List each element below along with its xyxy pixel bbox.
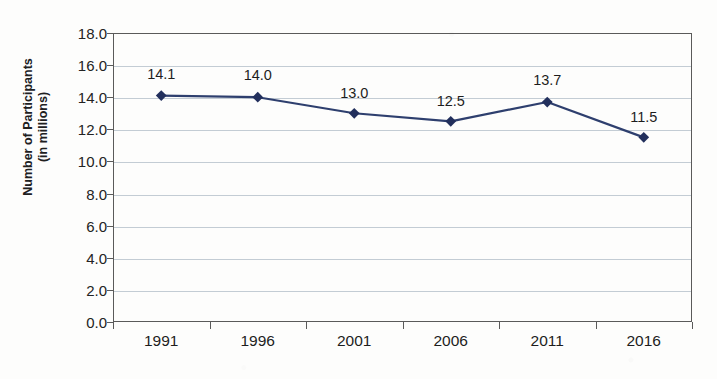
point-value-label: 14.0 — [218, 67, 298, 83]
y-axis-tickmark — [107, 226, 114, 227]
y-axis-tickmark — [107, 258, 114, 259]
gridline — [114, 130, 691, 131]
chart-figure: Number of Participants (in millions) 0.0… — [0, 0, 717, 379]
y-axis-tickmark — [107, 65, 114, 66]
gridline — [114, 98, 691, 99]
x-axis-tick-label: 1996 — [213, 332, 303, 350]
y-axis-tickmark — [107, 97, 114, 98]
x-axis-tick-label: 2016 — [599, 332, 689, 350]
x-axis-tickmark — [306, 322, 307, 329]
x-axis-tickmark — [403, 322, 404, 329]
y-axis-tickmark — [107, 33, 114, 34]
y-axis-tick-label: 8.0 — [0, 185, 107, 202]
y-axis-tick-label: 4.0 — [0, 249, 107, 266]
x-axis-tickmark — [210, 322, 211, 329]
gridline — [114, 227, 691, 228]
y-axis-tick-label: 14.0 — [0, 89, 107, 106]
y-axis-tickmark — [107, 161, 114, 162]
y-axis-tick-label: 12.0 — [0, 121, 107, 138]
y-axis-tickmark — [107, 194, 114, 195]
point-value-label: 13.0 — [314, 85, 394, 101]
x-axis-tickmark — [499, 322, 500, 329]
gridline — [114, 259, 691, 260]
chart-title — [150, 0, 580, 3]
point-value-label: 12.5 — [411, 93, 491, 109]
gridline — [114, 195, 691, 196]
x-axis-tickmark — [692, 322, 693, 329]
point-value-label: 13.7 — [507, 72, 587, 88]
y-axis-tick-labels: 0.02.04.06.08.010.012.014.016.018.0 — [0, 0, 107, 379]
y-axis-tickmark — [107, 129, 114, 130]
x-axis-tickmark — [596, 322, 597, 329]
y-axis-tickmark — [107, 290, 114, 291]
x-axis-tick-label: 2011 — [502, 332, 592, 350]
y-axis-tick-label: 18.0 — [0, 25, 107, 42]
y-axis-tick-label: 6.0 — [0, 217, 107, 234]
point-value-label: 11.5 — [604, 109, 684, 125]
y-axis-tick-label: 10.0 — [0, 153, 107, 170]
gridline — [114, 162, 691, 163]
point-value-label: 14.1 — [121, 66, 201, 82]
x-axis-tick-label: 2001 — [309, 332, 399, 350]
y-axis-tick-label: 0.0 — [0, 314, 107, 331]
y-axis-tick-label: 2.0 — [0, 281, 107, 298]
y-axis-tick-label: 16.0 — [0, 57, 107, 74]
x-axis-tick-label: 2006 — [406, 332, 496, 350]
gridline — [114, 291, 691, 292]
x-axis-tick-label: 1991 — [116, 332, 206, 350]
x-axis-tickmark — [113, 322, 114, 329]
